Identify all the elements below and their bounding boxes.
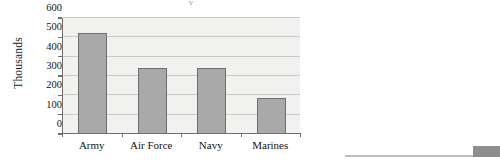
x-tick-mark [122,133,123,137]
y-tick-label: 500 [36,22,62,32]
y-axis-title: Thousands [12,23,26,103]
y-tick-label: 600 [36,3,62,13]
bar-navy [197,68,226,134]
y-tick-label: 400 [36,42,62,52]
gridline [63,17,300,18]
x-axis-label: Navy [181,139,241,152]
y-tick-label: 0 [36,119,62,129]
x-axis-label: Air Force [122,139,182,152]
x-axis-label: Marines [241,139,301,152]
clipped-title-remnant: y [186,0,196,5]
y-tick-label: 300 [36,61,62,71]
x-tick-mark [300,133,301,137]
bar-air-force [138,68,167,134]
plot-area [62,18,300,134]
bottom-gray-swatch [473,146,500,157]
x-axis-label: Army [62,139,122,152]
y-axis-ticks: 0100200300400500600 [30,18,62,134]
bar-chart-figure: Thousands 0100200300400500600 ArmyAir Fo… [0,6,320,156]
y-tick-label: 200 [36,80,62,90]
y-tick-label: 100 [36,100,62,110]
bar-marines [257,98,286,134]
x-tick-mark [181,133,182,137]
x-tick-mark [241,133,242,137]
x-tick-mark [62,133,63,137]
bar-army [78,33,107,134]
